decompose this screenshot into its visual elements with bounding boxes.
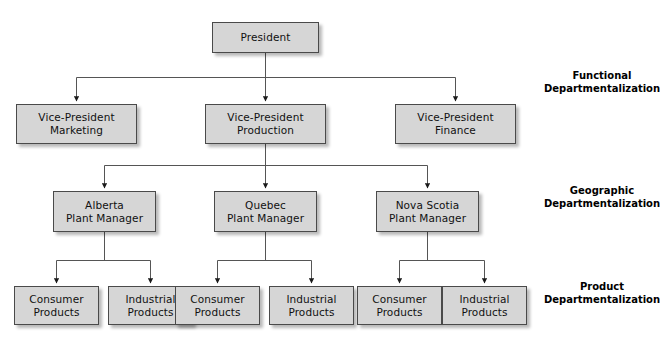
node-alberta-industrial-products-label: Industrial Products (125, 293, 175, 319)
node-alberta-consumer-products-label: Consumer Products (29, 293, 83, 319)
node-vp-production-label: Vice-President Production (227, 111, 303, 137)
node-alberta-plant-manager-label: Alberta Plant Manager (66, 199, 143, 225)
node-alberta-plant-manager[interactable]: Alberta Plant Manager (53, 191, 156, 232)
node-vp-marketing[interactable]: Vice-President Marketing (16, 104, 137, 144)
node-president[interactable]: President (212, 22, 319, 53)
node-nova-scotia-plant-manager-label: Nova Scotia Plant Manager (389, 199, 466, 225)
node-vp-marketing-label: Vice-President Marketing (38, 111, 114, 137)
node-vp-production[interactable]: Vice-President Production (205, 104, 326, 144)
node-nova-scotia-industrial-products-label: Industrial Products (459, 293, 509, 319)
node-nova-scotia-consumer-products[interactable]: Consumer Products (357, 286, 442, 325)
node-quebec-plant-manager[interactable]: Quebec Plant Manager (214, 191, 317, 232)
node-nova-scotia-plant-manager[interactable]: Nova Scotia Plant Manager (376, 191, 479, 232)
node-alberta-consumer-products[interactable]: Consumer Products (14, 286, 99, 325)
side-label-product: Product Departmentalization (538, 280, 666, 306)
org-chart-diagram: President Vice-President Marketing Vice-… (0, 0, 668, 345)
node-quebec-consumer-products[interactable]: Consumer Products (175, 286, 260, 325)
node-vp-finance-label: Vice-President Finance (417, 111, 493, 137)
node-nova-scotia-industrial-products[interactable]: Industrial Products (442, 286, 527, 325)
side-label-functional: Functional Departmentalization (538, 69, 666, 95)
node-quebec-plant-manager-label: Quebec Plant Manager (227, 199, 304, 225)
node-quebec-industrial-products-label: Industrial Products (286, 293, 336, 319)
node-nova-scotia-consumer-products-label: Consumer Products (372, 293, 426, 319)
node-quebec-industrial-products[interactable]: Industrial Products (269, 286, 354, 325)
side-label-geographic: Geographic Departmentalization (538, 184, 666, 210)
node-quebec-consumer-products-label: Consumer Products (190, 293, 244, 319)
node-president-label: President (241, 31, 291, 44)
node-vp-finance[interactable]: Vice-President Finance (395, 104, 516, 144)
